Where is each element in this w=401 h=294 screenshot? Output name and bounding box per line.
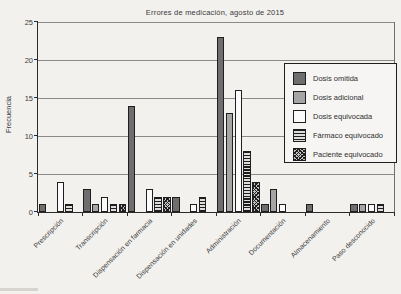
bar-fármaco-equivocado — [199, 197, 206, 212]
bar-dosis-adicional — [92, 204, 99, 212]
bar-dosis-equivocada — [57, 182, 64, 212]
y-tick-label: 20 — [18, 56, 33, 65]
y-tick-label: 25 — [18, 18, 33, 27]
bar-dosis-adicional — [270, 189, 277, 212]
bar-paciente-equivocado — [252, 182, 259, 212]
y-tick-mark — [34, 135, 38, 136]
bar-dosis-omitida — [172, 197, 179, 212]
legend-label: Paciente equivocado — [313, 150, 383, 159]
legend-item: Dosis equivocada — [285, 107, 396, 126]
legend-label: Fármaco equivocado — [313, 131, 383, 140]
y-tick-label: 10 — [18, 132, 33, 141]
x-tick-mark — [171, 212, 172, 216]
y-tick-label: 5 — [18, 170, 33, 179]
y-axis-label: Frecuencia — [4, 83, 13, 147]
x-tick-label: Almacenamiento — [289, 217, 331, 259]
bar-dosis-omitida — [83, 189, 90, 212]
y-tick-mark — [34, 21, 38, 22]
figure: Errores de medicación, agosto de 2015 Fr… — [0, 0, 401, 294]
x-tick-label: Paso desconocido — [330, 217, 375, 262]
legend-item: Paciente equivocado — [285, 145, 396, 164]
bar-dosis-equivocada — [190, 204, 197, 212]
bar-dosis-adicional — [359, 204, 366, 212]
bar-dosis-equivocada — [279, 204, 286, 212]
legend: Dosis omitidaDosis adicionalDosis equivo… — [284, 63, 397, 163]
solid-medium-swatch-icon — [293, 91, 306, 104]
bar-dosis-omitida — [128, 106, 135, 212]
legend-item: Dosis omitida — [285, 69, 396, 88]
chart-title: Errores de medicación, agosto de 2015 — [37, 8, 393, 17]
bar-dosis-omitida — [39, 204, 46, 212]
bar-fármaco-equivocado — [154, 197, 161, 212]
y-tick-mark — [34, 173, 38, 174]
x-tick-mark — [127, 212, 128, 216]
bar-fármaco-equivocado — [377, 204, 384, 212]
x-tick-mark — [38, 212, 39, 216]
bar-dosis-omitida — [217, 37, 224, 212]
legend-label: Dosis adicional — [313, 93, 363, 102]
legend-label: Dosis equivocada — [313, 112, 372, 121]
bar-fármaco-equivocado — [65, 204, 72, 212]
x-tick-mark — [305, 212, 306, 216]
bar-paciente-equivocado — [163, 197, 170, 212]
y-tick-label: 0 — [18, 208, 33, 217]
scan-artifact-mark — [0, 288, 38, 291]
x-tick-mark — [394, 212, 395, 216]
bar-fármaco-equivocado — [243, 151, 250, 212]
x-tick-label: Documentación — [247, 217, 286, 256]
x-tick-mark — [349, 212, 350, 216]
bar-fármaco-equivocado — [110, 204, 117, 212]
x-tick-label: Transcripción — [74, 217, 108, 251]
x-tick-label: Prescripción — [32, 217, 64, 249]
bar-dosis-equivocada — [101, 197, 108, 212]
y-tick-mark — [34, 97, 38, 98]
bar-dosis-equivocada — [146, 189, 153, 212]
legend-label: Dosis omitida — [313, 74, 358, 83]
gridline-y-25 — [38, 22, 394, 23]
solid-dark-swatch-icon — [293, 72, 306, 85]
x-tick-mark — [216, 212, 217, 216]
bar-dosis-omitida — [350, 204, 357, 212]
bar-dosis-equivocada — [235, 90, 242, 212]
x-tick-label: Administración — [205, 217, 242, 254]
x-tick-mark — [260, 212, 261, 216]
y-tick-label: 15 — [18, 94, 33, 103]
legend-item: Dosis adicional — [285, 88, 396, 107]
bar-dosis-omitida — [261, 204, 268, 212]
hlines-swatch-icon — [293, 129, 306, 142]
bar-dosis-equivocada — [368, 204, 375, 212]
x-tick-mark — [82, 212, 83, 216]
bar-dosis-adicional — [226, 113, 233, 212]
legend-item: Fármaco equivocado — [285, 126, 396, 145]
crosshatch-swatch-icon — [293, 148, 306, 161]
bar-paciente-equivocado — [119, 204, 126, 212]
solid-white-swatch-icon — [293, 110, 306, 123]
y-tick-mark — [34, 59, 38, 60]
bar-dosis-omitida — [306, 204, 313, 212]
